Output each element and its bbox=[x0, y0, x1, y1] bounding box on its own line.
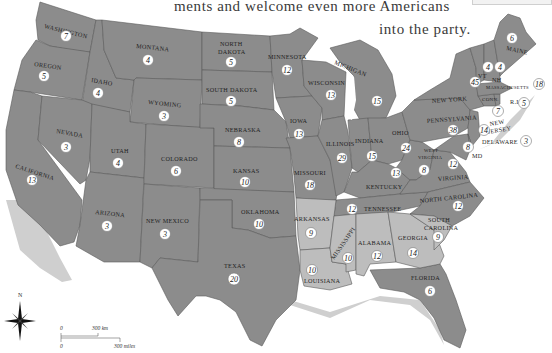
ev-new-jersey: 14 bbox=[479, 125, 490, 136]
svg-text:3: 3 bbox=[161, 112, 166, 121]
svg-text:29: 29 bbox=[338, 154, 346, 163]
svg-text:13: 13 bbox=[295, 130, 303, 139]
label-new-mexico: NEW MEXICO bbox=[146, 217, 189, 224]
label-south-carolina-1: SOUTH bbox=[428, 216, 450, 223]
ev-indiana: 15 bbox=[367, 151, 378, 162]
label-alabama: ALABAMA bbox=[358, 239, 392, 246]
svg-text:4: 4 bbox=[116, 159, 120, 168]
ev-oregon: 5 bbox=[39, 71, 50, 82]
ev-south-carolina: 9 bbox=[433, 232, 444, 243]
ev-arizona: 3 bbox=[102, 221, 113, 232]
svg-text:12: 12 bbox=[454, 202, 462, 211]
scale-mi-zero: 0 bbox=[60, 343, 63, 349]
label-new-hampshire: NH bbox=[492, 76, 502, 83]
ev-rhode-island: 5 bbox=[519, 98, 530, 109]
scale-bar: 0 300 km 0 300 miles bbox=[60, 325, 135, 349]
svg-text:14: 14 bbox=[409, 249, 417, 258]
label-indiana: INDIANA bbox=[355, 137, 384, 144]
svg-text:12: 12 bbox=[373, 252, 381, 261]
label-louisiana: LOUISIANA bbox=[304, 277, 341, 284]
label-massachusetts: MASSACHUSETTS bbox=[486, 85, 529, 90]
svg-text:6: 6 bbox=[174, 167, 178, 176]
svg-text:5: 5 bbox=[522, 99, 526, 108]
ev-west-virginia: 8 bbox=[419, 165, 430, 176]
scale-km-zero: 0 bbox=[60, 325, 63, 331]
svg-text:4: 4 bbox=[146, 56, 150, 65]
svg-text:12: 12 bbox=[449, 160, 457, 169]
svg-text:3: 3 bbox=[162, 230, 167, 239]
svg-text:9: 9 bbox=[309, 229, 313, 238]
svg-text:14: 14 bbox=[480, 126, 488, 135]
ev-idaho: 4 bbox=[93, 88, 104, 99]
svg-text:4: 4 bbox=[498, 63, 502, 72]
svg-text:18: 18 bbox=[306, 181, 314, 190]
svg-text:8: 8 bbox=[466, 143, 470, 152]
svg-text:5: 5 bbox=[229, 97, 233, 106]
ev-wisconsin: 13 bbox=[326, 90, 337, 101]
label-kansas: KANSAS bbox=[233, 167, 260, 174]
ev-mississippi: 10 bbox=[343, 253, 354, 264]
svg-text:3: 3 bbox=[104, 222, 109, 231]
ev-new-hampshire: 4 bbox=[495, 62, 506, 73]
label-kentucky: KENTUCKY bbox=[366, 183, 403, 190]
ev-arkansas: 9 bbox=[306, 228, 317, 239]
ev-washington: 7 bbox=[61, 31, 72, 42]
ev-nevada: 3 bbox=[61, 142, 72, 153]
svg-text:20: 20 bbox=[230, 275, 238, 284]
svg-text:18: 18 bbox=[535, 80, 543, 89]
ev-georgia: 14 bbox=[408, 248, 419, 259]
ev-massachusetts: 18 bbox=[534, 79, 545, 90]
ev-north-carolina: 12 bbox=[453, 201, 464, 212]
svg-text:9: 9 bbox=[436, 233, 440, 242]
label-south-carolina-2: CAROLINA bbox=[424, 224, 459, 231]
svg-text:8: 8 bbox=[422, 166, 426, 175]
svg-text:3: 3 bbox=[523, 137, 528, 146]
ev-louisiana: 10 bbox=[307, 265, 318, 276]
state-arkansas bbox=[296, 198, 336, 250]
label-iowa: IOWA bbox=[290, 117, 308, 124]
ev-oklahoma: 10 bbox=[254, 219, 265, 230]
label-florida: FLORIDA bbox=[411, 274, 440, 281]
ev-wyoming: 3 bbox=[159, 111, 170, 122]
label-ohio: OHIO bbox=[392, 129, 409, 136]
svg-text:12: 12 bbox=[348, 205, 356, 214]
label-georgia: GEORGIA bbox=[398, 234, 428, 241]
ev-colorado: 6 bbox=[171, 166, 182, 177]
svg-text:10: 10 bbox=[344, 254, 352, 263]
ev-florida: 6 bbox=[425, 286, 436, 297]
state-arizona bbox=[76, 172, 144, 262]
svg-text:38: 38 bbox=[448, 126, 457, 135]
scale-mi-label: 300 miles bbox=[113, 343, 135, 349]
label-delaware: DELAWARE bbox=[482, 138, 518, 145]
label-connecticut: CONN. bbox=[482, 97, 499, 102]
ev-maine: 6 bbox=[507, 33, 518, 44]
svg-text:15: 15 bbox=[373, 97, 381, 106]
svg-text:13: 13 bbox=[392, 169, 400, 178]
ev-montana: 4 bbox=[143, 55, 154, 66]
ev-virginia: 12 bbox=[448, 159, 459, 170]
compass-north-label: N bbox=[18, 292, 23, 298]
ev-minnesota: 12 bbox=[282, 65, 293, 76]
ev-tennessee: 12 bbox=[347, 204, 358, 215]
compass-rose-icon: N bbox=[4, 292, 36, 341]
svg-text:45: 45 bbox=[471, 78, 479, 87]
label-missouri: MISSOURI bbox=[294, 169, 326, 176]
ev-utah: 4 bbox=[113, 158, 124, 169]
label-colorado: COLORADO bbox=[161, 155, 198, 162]
ev-missouri: 18 bbox=[305, 180, 316, 191]
svg-text:13: 13 bbox=[28, 176, 36, 185]
label-oklahoma: OKLAHOMA bbox=[241, 208, 280, 215]
svg-text:4: 4 bbox=[96, 89, 100, 98]
ev-california: 13 bbox=[27, 175, 38, 186]
svg-text:15: 15 bbox=[368, 152, 376, 161]
ev-new-mexico: 3 bbox=[160, 229, 171, 240]
ev-alabama: 12 bbox=[372, 251, 383, 262]
svg-text:3: 3 bbox=[63, 143, 68, 152]
svg-text:4: 4 bbox=[486, 63, 490, 72]
svg-text:12: 12 bbox=[283, 66, 291, 75]
label-maryland: MD bbox=[472, 152, 483, 159]
svg-text:6: 6 bbox=[428, 287, 432, 296]
svg-text:10: 10 bbox=[241, 178, 249, 187]
label-west-virginia-1: WEST bbox=[424, 148, 438, 153]
